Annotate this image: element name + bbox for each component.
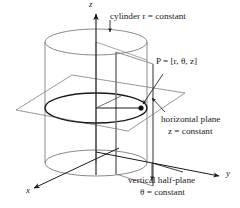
label-vertical-half-plane: vertical half-plane (128, 176, 195, 186)
label-horizontal-plane-condition: z = constant (168, 127, 212, 137)
y-axis (96, 152, 219, 176)
axis-label-x: x (26, 186, 30, 196)
point-p-marker (138, 105, 143, 110)
leader-vertical-plane-a (152, 163, 183, 172)
label-cylinder: cylinder r = constant (110, 12, 186, 22)
cylindrical-coordinates-figure: z x y cylinder r = constant P = [r, θ, z… (0, 0, 240, 208)
label-point-p: P = [r, θ, z] (156, 57, 197, 67)
label-horizontal-plane: horizontal plane (161, 115, 220, 125)
leader-horizontal-plane (152, 98, 165, 112)
axis-label-y: y (226, 169, 230, 179)
diagram-canvas (0, 0, 240, 208)
label-vertical-half-plane-condition: θ = constant (140, 188, 185, 198)
axis-label-z: z (89, 0, 93, 10)
radius-lines (96, 42, 147, 163)
